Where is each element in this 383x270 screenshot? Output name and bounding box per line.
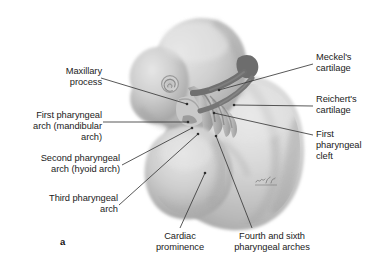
leader-endpoint-fourth-sixth-arches bbox=[215, 135, 218, 138]
label-maxillary-process: Maxillary process bbox=[6, 66, 102, 88]
label-second-pharyngeal-arch: Second pharyngeal arch (hyoid arch) bbox=[2, 153, 120, 175]
leader-endpoint-first-pharyngeal-arch bbox=[187, 121, 190, 124]
panel-letter: a bbox=[60, 236, 65, 247]
leader-endpoint-meckels-cartilage bbox=[218, 89, 221, 92]
label-fourth-sixth-pharyngeal-arches: Fourth and sixth pharyngeal arches bbox=[212, 231, 332, 253]
leader-endpoint-first-pharyngeal-cleft bbox=[213, 112, 216, 115]
leader-endpoint-reicherts-cartilage bbox=[233, 104, 236, 107]
label-third-pharyngeal-arch: Third pharyngeal arch bbox=[10, 193, 118, 215]
optic-vesicle-icon bbox=[162, 76, 179, 93]
label-meckels-cartilage: Meckel's cartilage bbox=[316, 52, 382, 74]
leader-endpoint-cardiac-prominence bbox=[204, 172, 207, 175]
label-first-pharyngeal-cleft: First pharyngeal cleft bbox=[316, 129, 382, 163]
label-reicherts-cartilage: Reichert's cartilage bbox=[316, 94, 382, 116]
leader-endpoint-third-pharyngeal-arch bbox=[197, 133, 200, 136]
label-first-pharyngeal-arch: First pharyngeal arch (mandibular arch) bbox=[2, 110, 102, 144]
leader-endpoint-maxillary-process bbox=[186, 103, 189, 106]
leader-endpoint-second-pharyngeal-arch bbox=[191, 127, 194, 130]
figure-embryo-pharyngeal-arches: Maxillary process First pharyngeal arch … bbox=[0, 0, 383, 270]
